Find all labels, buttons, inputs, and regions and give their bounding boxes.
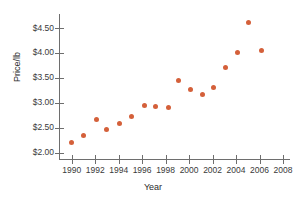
data-point — [235, 50, 240, 55]
data-point — [200, 92, 205, 97]
x-axis-tick-label: 2008 — [268, 166, 298, 175]
data-point — [176, 78, 181, 83]
scatter-chart: $2.00$2.50$3.00$3.50$4.00$4.50 199019921… — [0, 0, 306, 203]
data-point — [166, 105, 171, 110]
data-point — [104, 127, 109, 132]
data-point — [223, 65, 228, 70]
y-axis-tick-label: $3.00 — [10, 98, 54, 107]
data-point — [188, 87, 193, 92]
y-axis-tick-label: $4.50 — [10, 24, 54, 33]
data-point — [94, 117, 99, 122]
x-axis-title: Year — [0, 182, 306, 192]
data-point — [259, 48, 264, 53]
data-point — [142, 103, 147, 108]
y-axis-tick-label: $2.00 — [10, 148, 54, 157]
data-point — [117, 121, 122, 126]
data-point — [81, 133, 86, 138]
data-point — [153, 104, 158, 109]
data-point — [211, 85, 216, 90]
y-axis-title: Price/lb — [12, 41, 22, 93]
plot-area — [60, 14, 290, 160]
data-point — [69, 140, 74, 145]
data-point — [129, 114, 134, 119]
data-point — [246, 20, 251, 25]
y-axis-tick-label: $2.50 — [10, 123, 54, 132]
